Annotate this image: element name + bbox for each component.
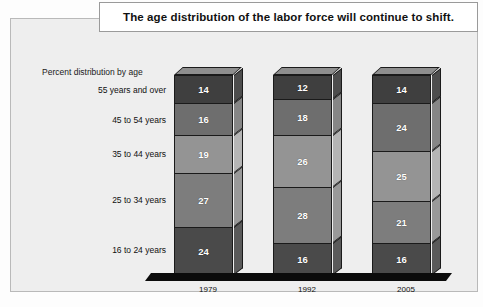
bar-group[interactable]: 14242521162005 (372, 19, 441, 293)
segment-value: 28 (297, 210, 308, 221)
bar-segment[interactable]: 16 (372, 243, 431, 275)
chart-panel: Percent distribution by age 55 years and… (10, 18, 478, 292)
bar-segment[interactable]: 18 (273, 99, 332, 135)
segment-value: 18 (297, 112, 308, 123)
segment-value: 14 (198, 84, 209, 95)
bar-side-face (234, 166, 243, 227)
year-label: 2005 (372, 285, 440, 294)
bar-segment[interactable]: 14 (372, 75, 431, 103)
category-label: 35 to 44 years (11, 149, 166, 159)
chart-title-box: The age distribution of the labor force … (99, 2, 478, 32)
bar-segment[interactable]: 21 (372, 201, 431, 243)
year-label: 1992 (273, 285, 341, 294)
bar-segment[interactable]: 28 (273, 187, 332, 243)
bar-stack: 1424252116 (372, 75, 431, 275)
bar-group[interactable]: 12182628161992 (273, 19, 342, 293)
bar-group[interactable]: 14161927241979 (174, 19, 243, 293)
segment-value: 16 (297, 254, 308, 265)
bar-top-face (372, 67, 440, 75)
category-label: 16 to 24 years (11, 245, 166, 255)
bar-side-face (432, 96, 441, 151)
segment-value: 19 (198, 149, 209, 160)
bar-segment[interactable]: 27 (174, 173, 233, 227)
bar-side-face (333, 180, 342, 243)
bar-segment[interactable]: 16 (273, 243, 332, 275)
category-label: 55 years and over (11, 85, 166, 95)
year-label: 1979 (174, 285, 242, 294)
bar-segment[interactable]: 26 (273, 135, 332, 187)
segment-value: 24 (198, 246, 209, 257)
segment-value: 16 (396, 254, 407, 265)
segment-value: 24 (396, 122, 407, 133)
bar-stack: 1218262816 (273, 75, 332, 275)
segment-value: 27 (198, 195, 209, 206)
chart-subtitle: Percent distribution by age (42, 67, 143, 77)
bar-side-face (432, 144, 441, 201)
ground-shadow (145, 273, 452, 281)
bar-segment[interactable]: 25 (372, 151, 431, 201)
segment-value: 12 (297, 82, 308, 93)
bar-top-face (174, 67, 242, 75)
bar-segment[interactable]: 19 (174, 135, 233, 173)
segment-value: 25 (396, 171, 407, 182)
chart-title: The age distribution of the labor force … (123, 11, 454, 23)
bar-segment[interactable]: 12 (273, 75, 332, 99)
bar-side-face (333, 236, 342, 275)
category-label: 25 to 34 years (11, 195, 166, 205)
bar-top-face (273, 67, 341, 75)
bar-side-face (432, 236, 441, 275)
bar-segment[interactable]: 14 (174, 75, 233, 103)
segment-value: 21 (396, 217, 407, 228)
segment-value: 14 (396, 84, 407, 95)
bar-segment[interactable]: 24 (372, 103, 431, 151)
segment-value: 26 (297, 156, 308, 167)
segment-value: 16 (198, 114, 209, 125)
bar-stack: 1416192724 (174, 75, 233, 275)
bar-segment[interactable]: 24 (174, 227, 233, 275)
bar-side-face (333, 128, 342, 187)
bar-segment[interactable]: 16 (174, 103, 233, 135)
page-background: Percent distribution by age 55 years and… (0, 0, 483, 307)
category-label: 45 to 54 years (11, 115, 166, 125)
bar-side-face (234, 220, 243, 275)
